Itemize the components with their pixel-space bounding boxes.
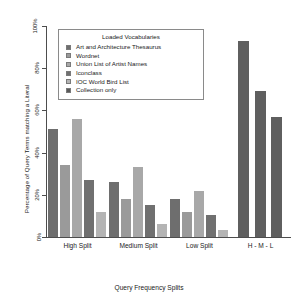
bar bbox=[206, 215, 217, 237]
legend-swatch-icon bbox=[66, 45, 71, 50]
x-axis-title: Query Frequency Splits bbox=[0, 284, 298, 291]
y-tick-label: 0% bbox=[21, 232, 43, 242]
y-tick-label: 60% bbox=[21, 105, 43, 115]
bar bbox=[48, 129, 59, 237]
x-group-label: Medium Split bbox=[119, 242, 157, 249]
legend-item-label: Union List of Artist Names bbox=[76, 61, 147, 67]
legend-item-label: Art and Architecture Thesaurus bbox=[76, 44, 161, 50]
legend-item: Union List of Artist Names bbox=[59, 60, 203, 69]
legend-item: Collection only bbox=[59, 86, 203, 95]
legend-swatch-icon bbox=[66, 79, 71, 84]
bar bbox=[60, 165, 71, 237]
legend-item: Wordnet bbox=[59, 52, 203, 61]
legend-item: Art and Architecture Thesaurus bbox=[59, 43, 203, 52]
bar bbox=[182, 212, 193, 237]
x-group-label: Low Split bbox=[186, 242, 213, 249]
bar bbox=[271, 117, 283, 237]
legend-items: Art and Architecture ThesaurusWordnetUni… bbox=[59, 43, 203, 95]
legend-swatch-icon bbox=[66, 53, 71, 58]
bar bbox=[96, 212, 107, 237]
y-tick-label: 80% bbox=[21, 63, 43, 73]
legend-swatch-icon bbox=[66, 62, 71, 67]
bar-chart: Percentage of Query Terms matching a Lit… bbox=[0, 0, 298, 297]
legend-item: Iconclass bbox=[59, 69, 203, 78]
bar bbox=[255, 91, 267, 237]
legend: Loaded Vocabularies Art and Architecture… bbox=[58, 29, 204, 100]
bar bbox=[145, 205, 156, 237]
bar bbox=[218, 230, 229, 237]
bar bbox=[170, 199, 181, 237]
y-axis-line bbox=[46, 26, 47, 237]
bar bbox=[72, 119, 83, 237]
legend-swatch-icon bbox=[66, 71, 71, 76]
x-axis-line bbox=[46, 237, 291, 238]
bar bbox=[121, 199, 132, 237]
x-group-label: H - M - L bbox=[248, 242, 274, 249]
legend-title: Loaded Vocabularies bbox=[59, 33, 203, 40]
legend-item-label: Wordnet bbox=[76, 53, 99, 59]
bar bbox=[194, 191, 205, 237]
bar bbox=[157, 224, 168, 237]
legend-item: IOC World Bird List bbox=[59, 77, 203, 86]
bar bbox=[238, 41, 250, 237]
legend-swatch-icon bbox=[66, 88, 71, 93]
bar bbox=[109, 182, 120, 237]
legend-item-label: Iconclass bbox=[76, 70, 102, 76]
legend-item-label: IOC World Bird List bbox=[76, 79, 129, 85]
x-group-label: High Split bbox=[63, 242, 91, 249]
bar bbox=[133, 167, 144, 237]
y-tick-label: 20% bbox=[21, 190, 43, 200]
y-tick-label: 40% bbox=[21, 148, 43, 158]
legend-item-label: Collection only bbox=[76, 87, 116, 93]
bar bbox=[84, 180, 95, 237]
y-tick-label: 100% bbox=[21, 21, 43, 31]
